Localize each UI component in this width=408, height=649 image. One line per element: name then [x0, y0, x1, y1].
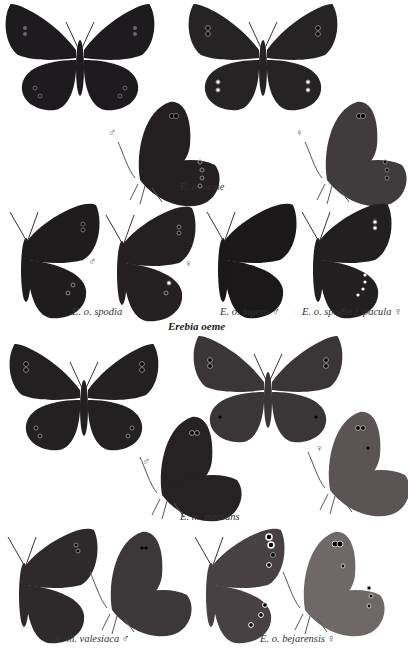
caption-spodia: E. o. spodia: [72, 306, 122, 317]
oeme-female-upperside: [263, 60, 264, 61]
valesiaca-male-underside: [112, 590, 113, 591]
meolans-female-underside: [330, 470, 331, 471]
bejarensis-female-half: [213, 585, 214, 586]
male-symbol: ♂: [88, 255, 96, 267]
caption-pacula: E. o. spodia f. pacula ♀: [302, 306, 402, 317]
caption-oeme: E. o. oeme: [180, 181, 224, 192]
meolans-male-upperside: [84, 400, 85, 401]
lugens-male: [225, 260, 226, 261]
bejarensis-female-underside: [305, 590, 306, 591]
female-symbol: ♀: [315, 442, 323, 454]
meolans-male-underside: [162, 475, 163, 476]
meolans-female-upperside: [268, 392, 269, 393]
oeme-male-upperside: [80, 60, 81, 61]
species-title: Erebia oeme: [168, 320, 225, 332]
male-symbol: ♂: [108, 126, 116, 138]
spodia-male: [28, 260, 29, 261]
valesiaca-male-half: [26, 585, 27, 586]
caption-valesiaca: E. m. valesiaca ♂: [55, 633, 130, 644]
caption-bejarensis: E. o. bejarensis ♀: [260, 633, 335, 644]
spodia-female: [124, 263, 125, 264]
caption-meolans: E. m. meolans: [180, 511, 240, 522]
female-symbol: ♀: [184, 257, 192, 269]
oeme-male-underside: [140, 160, 141, 161]
spodia-pacula-female: [320, 260, 321, 261]
female-symbol: ♀: [295, 126, 303, 138]
oeme-female-underside: [327, 160, 328, 161]
male-symbol: ♂: [142, 455, 150, 467]
caption-lugens: E. o. lugens ♂: [220, 306, 280, 317]
